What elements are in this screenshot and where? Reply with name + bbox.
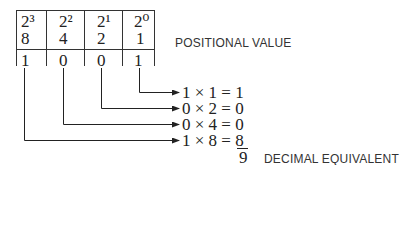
decimal-equivalent-label: DECIMAL EQUIVALENT: [264, 152, 399, 165]
arrow-bit-1: [102, 68, 180, 109]
equation-row: 1 × 8 = 8: [182, 132, 244, 150]
decimal-result: 9: [239, 149, 248, 165]
arrow-bit-0: [140, 68, 180, 93]
arrow-bit-2: [64, 68, 180, 125]
